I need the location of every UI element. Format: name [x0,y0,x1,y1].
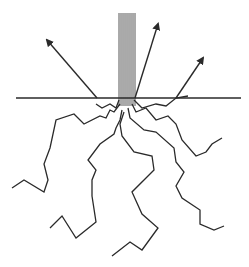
scattered-paths [12,96,224,256]
reflected-ray-arrow-icon [47,40,97,98]
scatter-path [128,108,224,230]
scatter-path [12,104,120,192]
scatter-path [96,100,119,108]
reflected-ray-arrow-icon [135,24,158,98]
reflected-ray-arrow-icon [176,58,203,98]
scatter-path [50,110,122,238]
diagram-canvas [0,0,249,267]
scattering-diagram [0,0,249,267]
scatter-path [112,112,158,256]
incident-beam [119,13,135,106]
